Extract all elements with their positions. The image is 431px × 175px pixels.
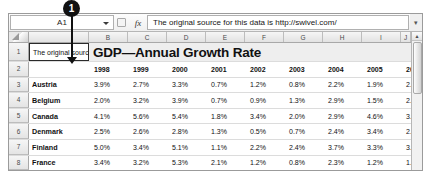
data-cell[interactable]: 3.3% <box>167 78 206 93</box>
row-header-6[interactable]: 6 <box>9 124 29 139</box>
year-header-2003[interactable]: 2003 <box>284 62 323 77</box>
data-cell[interactable]: 2.5% <box>401 124 411 139</box>
row-header-3[interactable]: 3 <box>9 78 29 93</box>
data-cell[interactable]: 5.6% <box>128 109 167 124</box>
spreadsheet-window: A1 fx The original source for this data … <box>8 13 423 171</box>
data-cell[interactable]: 0.9% <box>245 93 284 108</box>
country-name[interactable]: Austria <box>29 78 89 93</box>
row-header-5[interactable]: 5 <box>9 109 29 124</box>
data-cell[interactable]: 0.5% <box>245 124 284 139</box>
data-cell[interactable]: 5.3% <box>167 156 206 171</box>
data-cell[interactable]: 5.1% <box>167 140 206 155</box>
year-header-2002[interactable]: 2002 <box>245 62 284 77</box>
data-cell[interactable]: 3.2% <box>128 156 167 171</box>
data-cell[interactable]: 3.3% <box>362 140 401 155</box>
data-cell[interactable]: 0.8% <box>284 156 323 171</box>
select-all-corner-icon[interactable] <box>9 32 29 42</box>
year-header-2006[interactable]: 2006 <box>401 62 411 77</box>
scroll-up-icon[interactable]: ▲ <box>412 32 423 41</box>
data-cell[interactable]: 1.9% <box>362 78 401 93</box>
data-cell[interactable]: 4.1% <box>89 109 128 124</box>
year-header-1998[interactable]: 1998 <box>89 62 128 77</box>
data-cell[interactable]: 2.4% <box>323 124 362 139</box>
cell-a2[interactable] <box>29 62 89 77</box>
data-cell[interactable]: 1.8% <box>206 109 245 124</box>
data-cell[interactable]: 2.9% <box>323 93 362 108</box>
year-header-2004[interactable]: 2004 <box>323 62 362 77</box>
data-cell[interactable]: 2.2% <box>323 78 362 93</box>
data-cell[interactable]: 1.9% <box>401 156 411 171</box>
data-cell[interactable]: 1.2% <box>245 78 284 93</box>
name-box[interactable]: A1 <box>10 15 114 30</box>
country-name[interactable]: Finland <box>29 140 89 155</box>
data-cell[interactable]: 3.9% <box>89 78 128 93</box>
data-cell[interactable]: 2.6% <box>401 78 411 93</box>
data-cell[interactable]: 2.7% <box>128 78 167 93</box>
year-header-2000[interactable]: 2000 <box>167 62 206 77</box>
data-cell[interactable]: 0.7% <box>284 124 323 139</box>
vertical-scrollbar[interactable]: ▲ <box>411 32 422 171</box>
column-header-H[interactable]: H <box>323 32 362 42</box>
data-cell[interactable]: 1.5% <box>362 93 401 108</box>
row-header-1[interactable]: 1 <box>9 43 29 61</box>
data-cell[interactable]: 2.0% <box>284 109 323 124</box>
column-header-F[interactable]: F <box>245 32 284 42</box>
column-header-B[interactable]: B <box>89 32 128 42</box>
expand-formula-bar-icon[interactable]: ▾ <box>410 14 422 31</box>
data-cell[interactable]: 1.1% <box>206 140 245 155</box>
country-name[interactable]: Belgium <box>29 93 89 108</box>
data-cell[interactable]: 1.3% <box>284 93 323 108</box>
country-name[interactable]: Denmark <box>29 124 89 139</box>
data-cell[interactable]: 3.2% <box>128 93 167 108</box>
data-cell[interactable]: 2.4% <box>284 140 323 155</box>
data-cell[interactable]: 3.9% <box>167 93 206 108</box>
column-header-J[interactable]: J <box>401 32 411 42</box>
data-cell[interactable]: 0.7% <box>206 93 245 108</box>
data-cell[interactable]: 1.3% <box>206 124 245 139</box>
row-header-7[interactable]: 7 <box>9 140 29 155</box>
column-header-C[interactable]: C <box>128 32 167 42</box>
data-cell[interactable]: 1.2% <box>362 156 401 171</box>
formula-input[interactable]: The original source for this data is htt… <box>147 15 409 30</box>
data-cell[interactable]: 2.2% <box>245 140 284 155</box>
data-cell[interactable]: 2.9% <box>323 109 362 124</box>
column-header-D[interactable]: D <box>167 32 206 42</box>
country-name[interactable]: France <box>29 156 89 171</box>
scrollbar-thumb[interactable] <box>413 42 422 94</box>
chevron-down-icon[interactable] <box>103 22 109 25</box>
worksheet-grid[interactable]: B C D E F G H I J 1 The original source … <box>9 32 411 171</box>
column-header-A[interactable] <box>29 32 89 42</box>
column-header-I[interactable]: I <box>362 32 401 42</box>
data-cell[interactable]: 2.3% <box>323 156 362 171</box>
row-header-2[interactable]: 2 <box>9 62 29 77</box>
insert-function-icon[interactable]: fx <box>129 14 147 31</box>
active-cell-a1[interactable]: The original source <box>29 43 89 61</box>
column-header-E[interactable]: E <box>206 32 245 42</box>
country-name[interactable]: Canada <box>29 109 89 124</box>
data-cell[interactable]: 5.4% <box>167 109 206 124</box>
data-cell[interactable]: 2.8% <box>167 124 206 139</box>
data-cell[interactable]: 3.4% <box>362 124 401 139</box>
year-header-2001[interactable]: 2001 <box>206 62 245 77</box>
data-cell[interactable]: 2.1% <box>401 93 411 108</box>
year-header-1999[interactable]: 1999 <box>128 62 167 77</box>
data-cell[interactable]: 0.8% <box>284 78 323 93</box>
data-cell[interactable]: 2.6% <box>128 124 167 139</box>
data-cell[interactable]: 3.4% <box>128 140 167 155</box>
data-cell[interactable]: 3.2% <box>401 109 411 124</box>
data-cell[interactable]: 3.4% <box>245 109 284 124</box>
data-cell[interactable]: 2.1% <box>206 156 245 171</box>
year-header-2005[interactable]: 2005 <box>362 62 401 77</box>
data-cell[interactable]: 5.0% <box>89 140 128 155</box>
data-cell[interactable]: 1.2% <box>245 156 284 171</box>
data-cell[interactable]: 4.6% <box>362 109 401 124</box>
column-header-G[interactable]: G <box>284 32 323 42</box>
row-header-4[interactable]: 4 <box>9 93 29 108</box>
data-cell[interactable]: 3.7% <box>401 140 411 155</box>
data-cell[interactable]: 2.0% <box>89 93 128 108</box>
data-cell[interactable]: 3.4% <box>89 156 128 171</box>
data-cell[interactable]: 2.5% <box>89 124 128 139</box>
row-header-8[interactable]: 8 <box>9 156 29 171</box>
data-cell[interactable]: 0.7% <box>206 78 245 93</box>
data-cell[interactable]: 3.7% <box>323 140 362 155</box>
